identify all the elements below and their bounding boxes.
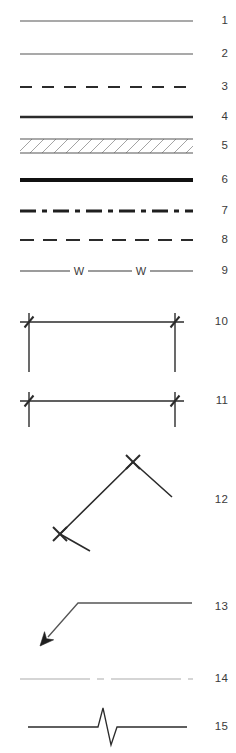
legend-row: WW9 bbox=[0, 257, 236, 289]
line-sample-break-line bbox=[0, 700, 200, 753]
line-sample-dashed bbox=[0, 71, 200, 104]
legend-row: 8 bbox=[0, 227, 236, 257]
legend-item-number: 1 bbox=[198, 15, 228, 27]
legend-row: 14 bbox=[0, 660, 236, 698]
legend-row: 11 bbox=[0, 382, 236, 424]
legend-row: 2 bbox=[0, 38, 236, 71]
legend-row: 6 bbox=[0, 164, 236, 195]
legend-item-number: 9 bbox=[198, 265, 228, 277]
legend-item-number: 14 bbox=[198, 673, 228, 685]
legend-item-number: 12 bbox=[198, 494, 228, 506]
legend-item-number: 3 bbox=[198, 81, 228, 93]
legend-row: 15 bbox=[0, 700, 236, 753]
legend-row: 3 bbox=[0, 71, 236, 104]
legend-row: 13 bbox=[0, 580, 236, 652]
legend-item-number: 11 bbox=[198, 395, 228, 407]
legend-item-number: 7 bbox=[198, 205, 228, 217]
line-sample-line-with-letters: WW bbox=[0, 257, 200, 289]
legend-item-number: 6 bbox=[198, 174, 228, 186]
legend-row: 1 bbox=[0, 4, 236, 38]
line-sample-dashed bbox=[0, 227, 200, 257]
legend-item-number: 13 bbox=[198, 601, 228, 613]
legend-item-number: 4 bbox=[198, 111, 228, 123]
legend-item-number: 2 bbox=[198, 48, 228, 60]
line-sample-polyline-cross-vertices bbox=[0, 440, 200, 560]
legend-row: 4 bbox=[0, 104, 236, 132]
legend-item-number: 10 bbox=[198, 316, 228, 328]
line-sample-dash-dot bbox=[0, 195, 200, 227]
legend-item-number: 8 bbox=[198, 234, 228, 246]
line-sample-solid-thin bbox=[0, 4, 200, 38]
legend-row: 5 bbox=[0, 132, 236, 164]
line-sample-dimension-short bbox=[0, 382, 200, 424]
legend-row: 10 bbox=[0, 296, 236, 358]
legend-item-number: 15 bbox=[198, 721, 228, 733]
legend-row: 7 bbox=[0, 195, 236, 227]
line-sample-leader-arrow bbox=[0, 580, 200, 652]
line-sample-faint-dash-dot bbox=[0, 660, 200, 698]
svg-text:W: W bbox=[74, 265, 85, 277]
line-sample-solid-thick bbox=[0, 164, 200, 195]
svg-text:W: W bbox=[136, 265, 147, 277]
line-sample-dimension-long bbox=[0, 296, 200, 358]
legend-item-number: 5 bbox=[198, 140, 228, 152]
line-sample-solid-thin bbox=[0, 38, 200, 71]
line-type-legend: 12345678WW9101112131415 bbox=[0, 0, 236, 753]
line-sample-solid-medium bbox=[0, 104, 200, 132]
legend-row: 12 bbox=[0, 440, 236, 560]
line-sample-hatched-band bbox=[0, 132, 200, 164]
